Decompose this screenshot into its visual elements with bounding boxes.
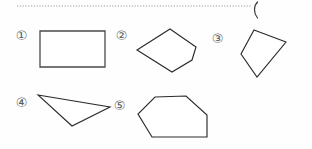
shape-label-4[interactable]: ④	[14, 95, 29, 110]
circled-number-3-icon: ③	[210, 31, 225, 46]
shape-label-1[interactable]: ①	[14, 28, 29, 43]
shape-label-2[interactable]: ②	[114, 28, 129, 43]
shape-quadrilateral-3[interactable]	[241, 30, 286, 77]
shape-label-3[interactable]: ③	[210, 31, 225, 46]
shape-rectangle-1[interactable]	[40, 31, 105, 67]
worksheet-page: ① ② ③ ④ ⑤	[0, 0, 312, 149]
shape-triangle-4[interactable]	[38, 95, 110, 126]
shape-pentagon-2[interactable]	[137, 29, 196, 72]
shape-hexagon-5[interactable]	[138, 96, 207, 137]
figure-canvas	[0, 0, 312, 149]
parenthesis-mark-icon	[255, 2, 258, 18]
circled-number-2-icon: ②	[114, 28, 129, 43]
shape-label-5[interactable]: ⑤	[112, 98, 127, 113]
circled-number-4-icon: ④	[14, 95, 29, 110]
circled-number-5-icon: ⑤	[112, 98, 127, 113]
circled-number-1-icon: ①	[14, 28, 29, 43]
